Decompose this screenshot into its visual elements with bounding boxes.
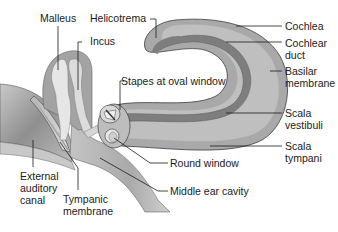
label-basilar-membrane: Basilar membrane (285, 65, 335, 89)
round-window-shape (105, 129, 119, 143)
label-middle-ear-cavity: Middle ear cavity (170, 185, 249, 197)
label-malleus: Malleus (40, 12, 76, 24)
label-incus: Incus (90, 35, 115, 47)
label-scala-vestibuli: Scala vestibuli (285, 107, 323, 131)
label-helicotrema: Helicotrema (90, 12, 146, 24)
label-tympanic-membrane: Tympanic membrane (63, 193, 113, 217)
label-stapes-at-oval-window: Stapes at oval window (121, 75, 225, 87)
stapes-shape (100, 105, 120, 123)
label-round-window: Round window (170, 157, 239, 169)
label-external-auditory-canal: External auditory canal (20, 170, 59, 206)
label-cochlear-duct: Cochlear duct (285, 37, 327, 61)
label-scala-tympani: Scala tympani (285, 140, 322, 164)
label-cochlea: Cochlea (285, 20, 324, 32)
